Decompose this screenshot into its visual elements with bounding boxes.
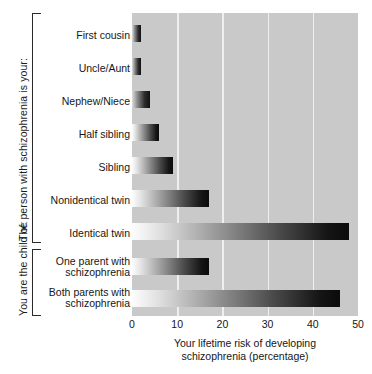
x-tick-10: 10 bbox=[171, 318, 183, 330]
category-label-half-sibling: Half sibling bbox=[42, 129, 130, 141]
category-label-nephew-niece: Nephew/Niece bbox=[42, 96, 130, 108]
gridline-30 bbox=[268, 13, 269, 316]
x-tick-0: 0 bbox=[129, 318, 135, 330]
group-bracket-child bbox=[32, 249, 41, 316]
x-tick-20: 20 bbox=[217, 318, 229, 330]
bar-both-parents bbox=[132, 290, 340, 307]
category-label-sibling: Sibling bbox=[42, 162, 130, 174]
x-axis-title-line1: Your lifetime risk of developing bbox=[174, 337, 316, 349]
bar-uncle-aunt bbox=[132, 58, 141, 75]
group-caption-person-with-schizophrenia: The person with schizophrenia is your: bbox=[17, 58, 29, 241]
group-caption-you-are-the-child-of: You are the child of: bbox=[17, 221, 29, 316]
gridline-20 bbox=[222, 13, 223, 316]
category-label-identical-twin: Identical twin bbox=[42, 228, 130, 240]
group-bracket-person bbox=[32, 13, 41, 243]
x-tick-50: 50 bbox=[352, 318, 364, 330]
bar-half-sibling bbox=[132, 124, 159, 141]
x-axis-tick-labels: 0 10 20 30 40 50 bbox=[132, 318, 358, 332]
bar-first-cousin bbox=[132, 25, 141, 42]
bar-one-parent bbox=[132, 258, 209, 275]
schizophrenia-risk-bar-chart: The person with schizophrenia is your: Y… bbox=[0, 0, 372, 374]
x-axis-title: Your lifetime risk of developing schizop… bbox=[132, 337, 358, 362]
bar-nephew-niece bbox=[132, 91, 150, 108]
category-label-uncle-aunt: Uncle/Aunt bbox=[42, 63, 130, 75]
category-label-nonidentical-twin: Nonidentical twin bbox=[42, 195, 130, 207]
category-label-both-parents-line2: schizophrenia bbox=[42, 298, 130, 310]
bar-sibling bbox=[132, 157, 173, 174]
bar-identical-twin bbox=[132, 223, 349, 240]
x-tick-30: 30 bbox=[262, 318, 274, 330]
category-label-one-parent-line2: schizophrenia bbox=[42, 267, 130, 279]
plot-area bbox=[132, 13, 358, 316]
bar-nonidentical-twin bbox=[132, 190, 209, 207]
category-label-column: First cousin Uncle/Aunt Nephew/Niece Hal… bbox=[42, 13, 130, 316]
category-label-first-cousin: First cousin bbox=[42, 30, 130, 42]
x-axis-title-line2: schizophrenia (percentage) bbox=[132, 350, 358, 363]
x-tick-40: 40 bbox=[307, 318, 319, 330]
gridline-40 bbox=[313, 13, 314, 316]
